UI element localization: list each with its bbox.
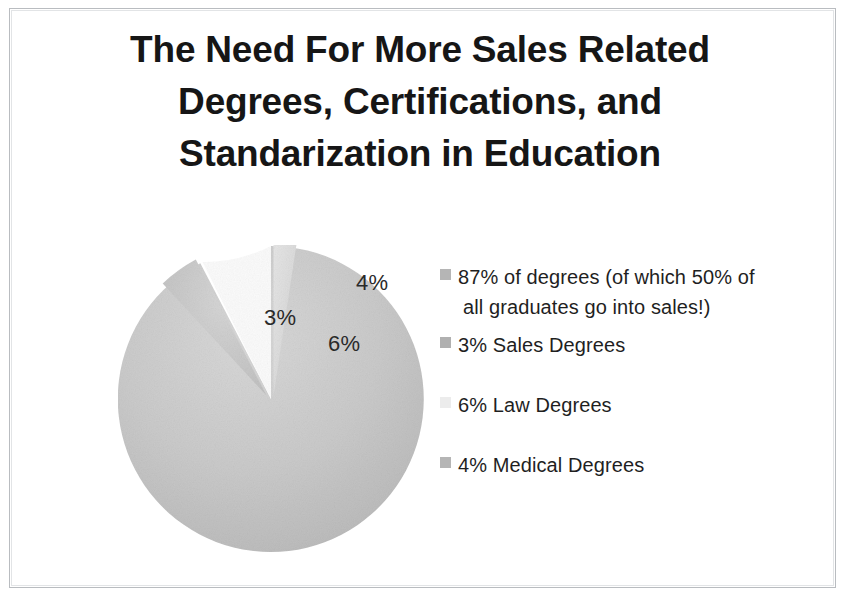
legend-item-law-degrees[interactable]: 6% Law Degrees — [440, 390, 790, 420]
pie-graphic: 3% 6% 4% — [118, 245, 424, 552]
slide-canvas: The Need For More Sales Related Degrees,… — [0, 0, 848, 600]
legend-swatch-icon-sales-degrees — [440, 337, 451, 348]
slide-title-line-2: Degrees, Certifications, and — [70, 76, 770, 128]
legend-item-degrees[interactable]: 87% of degrees (of which 50% of all grad… — [440, 262, 790, 322]
slide-title-line-3: Standarization in Education — [70, 128, 770, 180]
legend-label-law-degrees: 6% Law Degrees — [458, 390, 612, 420]
pie-data-label-sales: 3% — [264, 305, 296, 331]
legend-swatch-icon-medical-degrees — [440, 457, 451, 468]
legend-swatch-icon-law-degrees — [440, 397, 451, 408]
pie-data-label-medical: 4% — [356, 270, 388, 296]
legend-label-degrees-line-1: 87% of degrees (of which 50% of — [458, 266, 755, 288]
legend-label-medical-degrees: 4% Medical Degrees — [458, 450, 644, 480]
legend-label-degrees-line-2: all graduates go into sales!) — [458, 292, 755, 322]
slide-title: The Need For More Sales Related Degrees,… — [70, 24, 770, 180]
slide-title-line-1: The Need For More Sales Related — [70, 24, 770, 76]
pie-chart: 3% 6% 4% 87% of degrees (of which 50% of… — [0, 180, 848, 580]
legend-label-sales-degrees: 3% Sales Degrees — [458, 330, 625, 360]
legend-item-sales-degrees[interactable]: 3% Sales Degrees — [440, 330, 790, 360]
legend-swatch-icon-degrees — [440, 269, 451, 280]
legend-item-medical-degrees[interactable]: 4% Medical Degrees — [440, 450, 790, 480]
legend-label-degrees: 87% of degrees (of which 50% of all grad… — [458, 262, 755, 322]
pie-data-label-law: 6% — [328, 331, 360, 357]
